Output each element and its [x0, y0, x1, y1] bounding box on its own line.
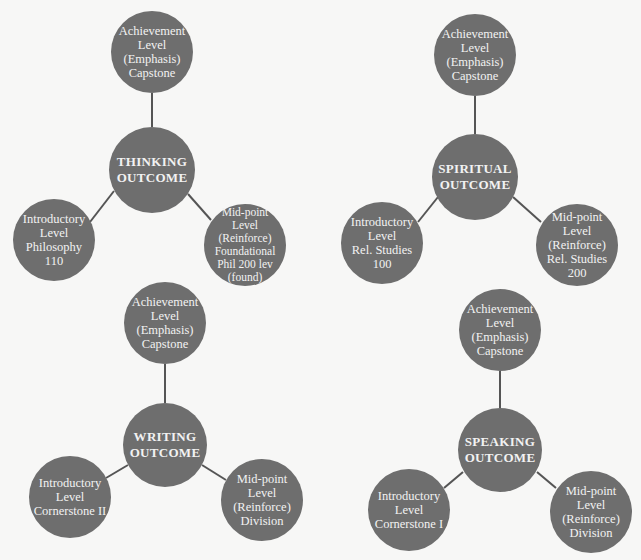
- connector-writing-left: [106, 465, 128, 478]
- spiritual-midpoint-node: Mid-point Level (Reinforce) Rel. Studies…: [536, 204, 618, 286]
- connector-speaking-left: [444, 472, 463, 488]
- writing-outcome-label: WRITING OUTCOME: [130, 429, 201, 461]
- spiritual-introductory-node: Introductory Level Rel. Studies 100: [341, 202, 423, 284]
- connector-thinking-right: [188, 194, 211, 220]
- thinking-introductory-node: Introductory Level Philosophy 110: [13, 199, 95, 281]
- thinking-achievement-label: Achievement Level (Emphasis) Capstone: [119, 24, 186, 80]
- thinking-midpoint-node: Mid-point Level (Reinforce) Foundational…: [204, 204, 286, 286]
- writing-introductory-node: Introductory Level Cornerstone II: [29, 456, 111, 538]
- connector-speaking-right: [537, 472, 556, 488]
- spiritual-achievement-node: Achievement Level (Emphasis) Capstone: [434, 14, 516, 96]
- speaking-introductory-label: Introductory Level Cornerstone I: [375, 489, 443, 531]
- writing-midpoint-label: Mid-point Level (Reinforce) Division: [233, 472, 291, 528]
- writing-midpoint-node: Mid-point Level (Reinforce) Division: [221, 459, 303, 541]
- thinking-outcome-node: THINKING OUTCOME: [109, 127, 195, 213]
- writing-outcome-node: WRITING OUTCOME: [123, 403, 207, 487]
- thinking-midpoint-label: Mid-point Level (Reinforce) Foundational…: [215, 206, 276, 284]
- spiritual-achievement-label: Achievement Level (Emphasis) Capstone: [442, 27, 509, 83]
- speaking-midpoint-node: Mid-point Level (Reinforce) Division: [550, 471, 632, 553]
- writing-achievement-label: Achievement Level (Emphasis) Capstone: [132, 295, 199, 351]
- connector-spiritual-left: [418, 197, 438, 222]
- speaking-achievement-label: Achievement Level (Emphasis) Capstone: [467, 302, 534, 358]
- connector-spiritual-right: [513, 197, 541, 222]
- spiritual-introductory-label: Introductory Level Rel. Studies 100: [345, 215, 419, 271]
- connector-writing-right: [202, 465, 226, 480]
- speaking-outcome-node: SPEAKING OUTCOME: [458, 408, 542, 492]
- spiritual-midpoint-label: Mid-point Level (Reinforce) Rel. Studies…: [540, 210, 614, 280]
- thinking-introductory-label: Introductory Level Philosophy 110: [17, 212, 91, 268]
- spiritual-outcome-node: SPIRITUAL OUTCOME: [432, 134, 518, 220]
- spiritual-outcome-label: SPIRITUAL OUTCOME: [438, 161, 512, 193]
- speaking-outcome-label: SPEAKING OUTCOME: [465, 434, 536, 466]
- thinking-achievement-node: Achievement Level (Emphasis) Capstone: [111, 11, 193, 93]
- writing-achievement-node: Achievement Level (Emphasis) Capstone: [124, 282, 206, 364]
- speaking-midpoint-label: Mid-point Level (Reinforce) Division: [562, 484, 620, 540]
- thinking-outcome-label: THINKING OUTCOME: [117, 154, 188, 186]
- speaking-introductory-node: Introductory Level Cornerstone I: [368, 469, 450, 551]
- writing-introductory-label: Introductory Level Cornerstone II: [34, 476, 107, 518]
- speaking-achievement-node: Achievement Level (Emphasis) Capstone: [459, 289, 541, 371]
- connector-thinking-left: [90, 191, 114, 222]
